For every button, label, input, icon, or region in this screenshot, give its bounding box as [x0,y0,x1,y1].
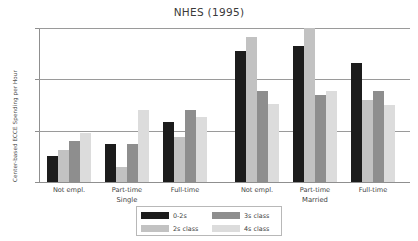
x-axis-super-label: Single [117,196,138,204]
bar [80,133,91,182]
x-tick-label: Full-time [171,186,200,194]
bar [196,117,207,182]
bar [235,51,246,182]
bar [127,144,138,183]
bar [326,91,337,182]
legend-item[interactable]: 4s class [212,223,277,234]
legend-item[interactable]: 3s class [212,210,277,221]
legend-grid: 0-2s3s class2s class4s class [141,210,277,232]
legend-label: 0-2s [173,212,187,220]
bar-group [293,28,337,182]
chart-title: NHES (1995) [0,6,418,18]
legend-swatch [141,225,169,232]
x-tick-label: Part-time [300,186,330,194]
bar-group [351,28,395,182]
chart-legend: 0-2s3s class2s class4s class [136,206,282,236]
bar-group [47,28,91,182]
bar [293,46,304,182]
legend-swatch [212,212,240,219]
bar-group [105,28,149,182]
x-axis-super-label: Married [302,196,328,204]
legend-label: 2s class [173,225,198,233]
legend-item[interactable]: 2s class [141,223,206,234]
bar [47,156,58,182]
x-axis-line [39,182,410,183]
bar [315,95,326,182]
legend-item[interactable]: 0-2s [141,210,206,221]
bar [69,141,80,182]
bar [58,150,69,182]
x-tick-label: Not empl. [241,186,273,194]
legend-label: 3s class [244,212,269,220]
legend-label: 4s class [244,225,269,233]
bar [163,122,174,182]
x-tick-label: Full-time [359,186,388,194]
bar [362,100,373,182]
bar [138,110,149,182]
x-tick-label: Not empl. [53,186,85,194]
legend-swatch [212,225,240,232]
plot-area [39,28,410,182]
bar [116,167,127,182]
y-axis-ticks: 0246 [0,0,39,241]
bar [351,63,362,182]
x-tick-label: Part-time [112,186,142,194]
bar [384,105,395,182]
bar [185,110,196,182]
bar [246,37,257,182]
bar [373,91,384,182]
bar [105,144,116,183]
bar [304,28,315,182]
bar [174,137,185,182]
chart-container: NHES (1995) Center-based ECCE Spending p… [0,0,418,241]
bar [257,91,268,182]
bar-group [235,28,279,182]
bar [268,104,279,182]
legend-swatch [141,212,169,219]
bar-group [163,28,207,182]
